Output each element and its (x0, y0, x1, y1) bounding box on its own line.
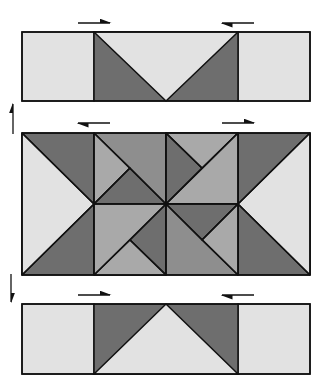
middle-row (22, 133, 310, 275)
quilt-diagram (0, 0, 330, 390)
top-row (22, 32, 310, 101)
bottom-row (22, 304, 310, 374)
